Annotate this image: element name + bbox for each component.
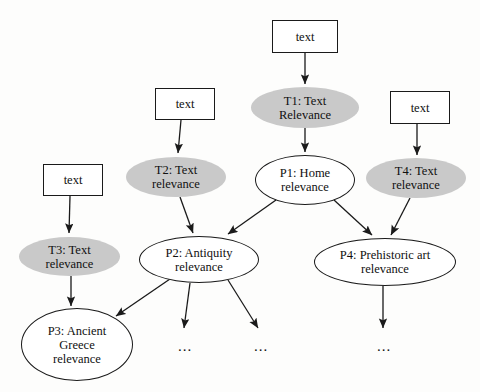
node-T1[interactable]: T1: Text Relevance [251,87,359,128]
node-text2[interactable]: text [155,88,215,120]
node-T3[interactable]: T3: Text relevance [19,237,120,276]
node-P2[interactable]: P2: Antiquity relevance [139,236,259,283]
node-label-T1: T1: Text Relevance [275,94,335,122]
node-label-T4: T4: Text relevance [388,164,444,192]
edge-T2-to-P2 [180,197,193,233]
node-label-T2: T2: Text relevance [148,163,204,191]
node-T4[interactable]: T4: Text relevance [366,158,466,198]
edge-text2-to-T2 [178,120,181,153]
node-label-T3: T3: Text relevance [42,243,98,271]
node-text4[interactable]: text [390,91,450,124]
ellipsis-dots-p4: ... [377,338,391,355]
node-text1[interactable]: text [272,20,338,53]
node-P4[interactable]: P4: Prehistoric art relevance [314,238,456,286]
edge-P1-to-P2 [228,200,276,234]
node-label-text4: text [407,101,434,115]
node-P1[interactable]: P1: Home relevance [255,155,355,205]
node-label-text1: text [292,30,319,44]
node-T2[interactable]: T2: Text relevance [126,157,226,197]
edge-text3-to-T3 [69,196,70,233]
ellipsis-dots-p2-a: ... [178,338,192,355]
edge-T4-to-P4 [391,198,410,235]
edge-P1-to-P4 [334,200,372,235]
node-P3[interactable]: P3: Ancient Greece relevance [21,308,133,381]
node-label-P1: P1: Home relevance [276,166,334,194]
edge-P2-to-P3 [116,279,170,316]
edge-P2-to-dots-p2-a [184,283,190,328]
diagram-canvas: texttexttexttextT1: Text RelevanceT2: Te… [0,0,480,392]
node-label-P2: P2: Antiquity relevance [161,246,236,274]
node-label-P3: P3: Ancient Greece relevance [44,324,111,366]
edge-P2-to-dots-p2-b [228,280,258,328]
node-label-text3: text [60,173,87,187]
ellipsis-dots-p2-b: ... [254,338,268,355]
node-text3[interactable]: text [43,164,103,196]
node-label-P4: P4: Prehistoric art relevance [336,248,434,276]
node-label-text2: text [172,97,199,111]
